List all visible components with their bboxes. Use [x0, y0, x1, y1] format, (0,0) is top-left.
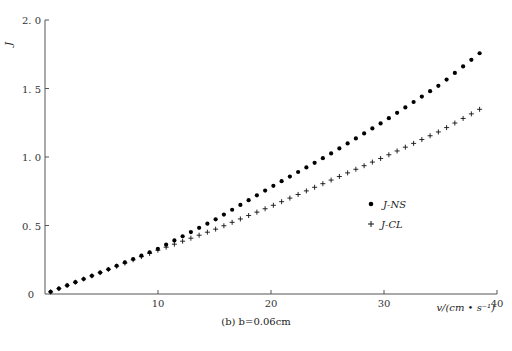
j-ns-point [321, 156, 325, 160]
j-ns-point [395, 111, 399, 115]
j-ns-point [181, 234, 185, 238]
j-cl-point [238, 216, 243, 221]
x-axis-label: v/(cm • s⁻¹) [436, 302, 495, 313]
j-cl-point [444, 125, 449, 130]
j-cl-point [436, 129, 441, 134]
j-ns-point [123, 260, 127, 264]
j-ns-point [354, 136, 358, 140]
j-ns-point [106, 267, 110, 271]
j-cl-point [411, 141, 416, 146]
j-ns-point [222, 212, 226, 216]
j-ns-point [230, 208, 234, 212]
j-ns-point [436, 84, 440, 88]
j-cl-point [428, 133, 433, 138]
j-ns-point [214, 217, 218, 221]
j-cl-point [362, 163, 367, 168]
j-ns-point [280, 179, 284, 183]
j-ns-point [412, 100, 416, 104]
j-ns-point [90, 274, 94, 278]
y-tick-label: 2. 0 [22, 15, 41, 26]
j-cl-point [403, 145, 408, 150]
j-cl-point [395, 148, 400, 153]
j-ns-point [156, 247, 160, 251]
j-cl-point [188, 236, 193, 241]
j-ns-point [205, 222, 209, 226]
j-ns-point [197, 226, 201, 230]
j-cl-point [263, 206, 268, 211]
j-cl-point [370, 160, 375, 165]
j-cl-point [287, 196, 292, 201]
j-ns-point [453, 71, 457, 75]
j-cl-point [205, 230, 210, 235]
j-ns-point [420, 94, 424, 98]
legend: J-NSJ-CL [368, 199, 406, 230]
j-ns-point [73, 280, 77, 284]
data-series [48, 51, 482, 294]
j-ns-point [98, 271, 102, 275]
legend-label-j-ns: J-NS [381, 199, 406, 210]
j-cl-point [386, 152, 391, 157]
j-ns-point [238, 203, 242, 207]
j-cl-point [271, 203, 276, 208]
j-cl-point [279, 199, 284, 204]
j-cl-point [452, 121, 457, 126]
j-ns-point [82, 277, 86, 281]
y-tick-label: 1. 5 [22, 84, 41, 95]
j-cl-point [320, 181, 325, 186]
j-ns-point [296, 170, 300, 174]
x-tick-label: 10 [152, 298, 165, 309]
y-axis-label: J [3, 41, 14, 48]
j-ns-point [346, 141, 350, 145]
y-tick-label: 1. 0 [22, 152, 41, 163]
j-ns-point [403, 105, 407, 109]
j-ns-point [379, 121, 383, 125]
j-cl-point [378, 156, 383, 161]
chart-canvas: 0102030400. 51. 01. 52. 0Jv/(cm • s⁻¹) J… [0, 0, 512, 351]
j-cl-point [419, 137, 424, 142]
x-tick-label: 20 [265, 298, 278, 309]
j-cl-point [353, 167, 358, 172]
j-ns-point [247, 198, 251, 202]
j-cl-point [345, 170, 350, 175]
legend-label-j-cl: J-CL [379, 219, 403, 230]
j-ns-point [387, 116, 391, 120]
j-ns-point [313, 161, 317, 165]
j-cl-point [180, 239, 185, 244]
figure-caption: (b) b=0.06cm [0, 316, 512, 327]
j-ns-point [288, 175, 292, 179]
j-cl-point [213, 227, 218, 232]
j-ns-point [255, 193, 259, 197]
j-ns-point [189, 230, 193, 234]
y-tick-label: 0. 5 [22, 221, 41, 232]
j-cl-point [304, 188, 309, 193]
j-ns-point [263, 188, 267, 192]
j-ns-point [428, 89, 432, 93]
j-cl-point [461, 116, 466, 121]
j-ns-point [115, 264, 119, 268]
j-ns-point [445, 77, 449, 81]
j-cl-point [254, 210, 259, 215]
x-tick-label: 0 [28, 289, 34, 300]
j-ns-point [49, 290, 53, 294]
j-cl-point [246, 213, 251, 218]
j-cl-point [337, 174, 342, 179]
j-cl-point [296, 192, 301, 197]
j-ns-point [131, 257, 135, 261]
j-cl-point [312, 185, 317, 190]
j-ns-point [370, 126, 374, 130]
j-ns-point [172, 238, 176, 242]
j-ns-point [164, 243, 168, 247]
j-ns-point [469, 58, 473, 62]
j-ns-point [477, 51, 481, 55]
j-cl-point [477, 107, 482, 112]
j-ns-point [329, 151, 333, 155]
j-ns-point [57, 287, 61, 291]
j-ns-point [304, 165, 308, 169]
j-ns-point [271, 184, 275, 188]
j-ns-point [65, 283, 69, 287]
j-cl-point [329, 178, 334, 183]
j-cl-point [469, 111, 474, 116]
legend-dot-icon [369, 202, 374, 207]
j-ns-point [139, 254, 143, 258]
j-cl-point [230, 220, 235, 225]
